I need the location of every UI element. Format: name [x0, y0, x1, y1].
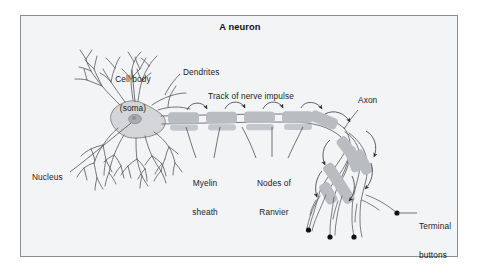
terminal-button-dot [394, 210, 399, 215]
myelin-sheath-lower [170, 124, 312, 131]
label-myelin-sheath: Myelin sheath [175, 160, 235, 237]
label-terminal-buttons: Terminal buttons [419, 203, 451, 274]
leader-axon [344, 110, 358, 129]
leader-myelin-a [186, 127, 196, 158]
label-cell-body: Cell body (soma) [98, 56, 168, 133]
label-track-of-nerve-impulse: Track of nerve impulse [185, 92, 317, 102]
leader-node-c [288, 127, 303, 158]
label-nucleus: Nucleus [32, 173, 63, 183]
leader-node-a [242, 127, 256, 158]
neuron-diagram-figure: A neuron [0, 0, 480, 274]
neuron-illustration [0, 0, 480, 274]
terminal-button-dot [351, 234, 356, 239]
terminal-button-dot [306, 227, 311, 232]
label-dendrites: Dendrites [183, 68, 219, 78]
leader-myelin-b [214, 127, 220, 158]
terminal-buttons [306, 210, 400, 239]
label-axon: Axon [358, 96, 377, 106]
terminal-button-dot [327, 234, 332, 239]
label-nodes-of-ranvier: Nodes of Ranvier [243, 160, 305, 237]
